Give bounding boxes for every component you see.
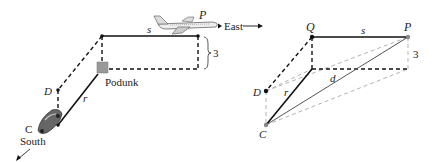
light-D-to-P (266, 37, 408, 91)
label-P-left: P (198, 8, 207, 22)
label-3-left: 3 (213, 47, 219, 59)
point-D-left (56, 88, 60, 92)
label-3-right: 3 (413, 48, 419, 60)
point-Q (310, 35, 314, 39)
label-r-right: r (284, 86, 289, 98)
podunk-square (97, 62, 108, 73)
segment-r-right (266, 69, 312, 125)
point-P-right (406, 35, 410, 39)
point-D-right (264, 89, 268, 93)
label-east: East (224, 20, 243, 32)
dashed-Q-D (266, 37, 312, 91)
point-top-corner (100, 34, 104, 38)
right-diagram: Q P s 3 d D r C (252, 20, 419, 140)
dashed-diagonal (58, 36, 102, 90)
label-Q: Q (306, 20, 315, 34)
east-small-arrow (218, 24, 222, 29)
light-D-to-base (266, 69, 312, 91)
label-s-right: s (361, 24, 365, 36)
left-diagram: P East s 3 Podunk D r C South (16, 8, 263, 161)
label-C-left: C (25, 123, 32, 135)
label-D-left: D (43, 85, 52, 97)
brace-3 (204, 37, 211, 69)
label-s-left: s (147, 23, 151, 35)
car-icon (38, 110, 62, 134)
label-r-left: r (83, 92, 88, 104)
east-arrow-head (258, 24, 263, 29)
point-P-left (196, 34, 200, 38)
point-C-right (264, 123, 268, 127)
label-podunk: Podunk (105, 76, 139, 88)
label-south: South (20, 135, 46, 147)
label-d: d (330, 72, 336, 84)
label-D-right: D (252, 86, 261, 98)
airplane-icon (154, 16, 217, 34)
label-P-right: P (403, 20, 412, 34)
label-C-right: C (259, 128, 267, 140)
south-arrow-head (16, 155, 21, 161)
